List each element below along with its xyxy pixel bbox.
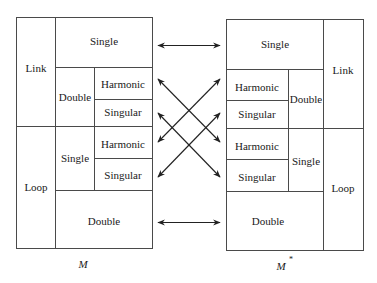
left-loop-harmonic-label: Harmonic: [101, 138, 145, 150]
left-panel-m: Link Single Double Harmonic Singular Loo…: [17, 18, 153, 271]
left-outer-box: [17, 18, 153, 249]
duality-diagram: Link Single Double Harmonic Singular Loo…: [0, 0, 377, 283]
right-caption-star: *: [289, 255, 293, 264]
right-link-double-label: Double: [290, 93, 323, 105]
left-loop-label: Loop: [24, 181, 48, 193]
right-loop-harmonic-label: Harmonic: [235, 140, 279, 152]
right-loop-label: Loop: [331, 182, 355, 194]
right-caption-m: M: [275, 260, 286, 272]
right-link-single-label: Single: [261, 38, 289, 50]
left-link-harmonic-label: Harmonic: [101, 78, 145, 90]
left-loop-singular-label: Singular: [104, 169, 142, 181]
left-loop-single-label: Single: [61, 152, 89, 164]
left-link-label: Link: [26, 62, 47, 74]
left-link-singular-label: Singular: [104, 106, 142, 118]
left-caption-m: M: [77, 258, 88, 270]
right-loop-double-label: Double: [252, 215, 285, 227]
right-loop-single-label: Single: [292, 155, 320, 167]
right-loop-singular-label: Singular: [238, 171, 276, 183]
right-panel-m-star: Link Single Double Harmonic Singular Loo…: [227, 20, 364, 273]
right-outer-box: [227, 20, 364, 251]
left-link-double-label: Double: [59, 91, 92, 103]
left-loop-double-label: Double: [88, 215, 121, 227]
left-link-single-label: Single: [90, 35, 118, 47]
correspondence-arrows: [158, 46, 220, 223]
right-link-label: Link: [333, 64, 354, 76]
right-link-harmonic-label: Harmonic: [235, 81, 279, 93]
right-link-singular-label: Singular: [238, 108, 276, 120]
